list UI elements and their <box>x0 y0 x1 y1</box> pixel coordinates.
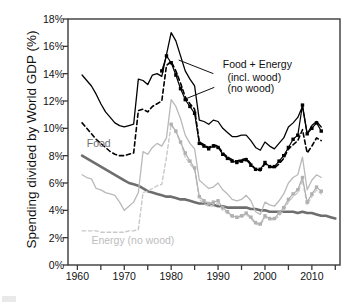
series-marker <box>268 165 271 168</box>
series-marker <box>315 121 318 124</box>
series-marker <box>235 215 238 218</box>
annotation-food-energy-no-wood: (no wood) <box>227 83 274 95</box>
series-marker <box>259 222 262 225</box>
x-tick-label: 2000 <box>253 270 276 282</box>
series-marker <box>226 210 229 213</box>
caption-artifact <box>2 296 16 302</box>
series-marker <box>174 129 177 132</box>
series-marker <box>212 144 215 147</box>
series-marker <box>207 147 210 150</box>
x-tick-label: 1980 <box>159 270 182 282</box>
series-marker <box>282 154 285 157</box>
series-marker <box>291 192 294 195</box>
series-marker <box>212 200 215 203</box>
y-axis-tick-labels: 0%2%4%6%8%10%12%14%16%18% <box>0 0 64 307</box>
series-marker <box>198 142 201 145</box>
series-marker <box>282 206 285 209</box>
series-marker <box>193 166 196 169</box>
annotation-energy-no-wood-label: Energy (no wood) <box>91 234 174 246</box>
y-tick-label: 4% <box>49 204 64 216</box>
x-tick-label: 1970 <box>113 270 136 282</box>
series-marker <box>305 200 308 203</box>
series-marker <box>179 87 182 90</box>
series-marker <box>230 214 233 217</box>
series-marker <box>202 144 205 147</box>
series-marker <box>254 221 257 224</box>
series-marker <box>169 123 172 126</box>
y-tick-label: 12% <box>43 95 64 107</box>
series-marker <box>263 214 266 217</box>
y-tick-label: 16% <box>43 40 64 52</box>
series-marker <box>226 157 229 160</box>
series-marker <box>235 161 238 164</box>
series-marker <box>291 138 294 141</box>
series-marker <box>193 112 196 115</box>
series-marker <box>216 199 219 202</box>
x-tick-label: 1960 <box>66 270 89 282</box>
series-marker <box>188 105 191 108</box>
series-line <box>82 124 321 232</box>
series-marker <box>273 165 276 168</box>
y-tick-label: 2% <box>49 232 64 244</box>
series-marker <box>174 73 177 76</box>
series-marker <box>160 69 163 72</box>
annotation-leader-line <box>187 87 214 98</box>
y-tick-label: 8% <box>49 150 64 162</box>
series-marker <box>277 211 280 214</box>
series-marker <box>221 206 224 209</box>
series-marker <box>320 190 323 193</box>
annotation-food-energy-title: Food + Energy <box>223 59 292 71</box>
series-marker <box>216 146 219 149</box>
series-marker <box>310 127 313 130</box>
series-marker <box>259 168 262 171</box>
series-marker <box>169 61 172 64</box>
series-marker <box>240 214 243 217</box>
y-tick-label: 6% <box>49 177 64 189</box>
series-marker <box>165 54 168 57</box>
series-marker <box>254 168 257 171</box>
series-marker <box>245 158 248 161</box>
series-marker <box>273 217 276 220</box>
series-marker <box>263 161 266 164</box>
y-tick-label: 0% <box>49 259 64 271</box>
chart-figure: Spending divided by World GDP (%) 0%2%4%… <box>0 0 358 307</box>
series-marker <box>296 133 299 136</box>
series-marker <box>249 215 252 218</box>
series-marker <box>287 146 290 149</box>
series-line <box>82 156 335 219</box>
series-marker <box>268 217 271 220</box>
annotation-food-label: Food <box>87 137 111 149</box>
series-marker <box>315 185 318 188</box>
series-marker <box>184 151 187 154</box>
y-tick-label: 18% <box>43 13 64 25</box>
x-tick-label: 1990 <box>206 270 229 282</box>
series-marker <box>277 159 280 162</box>
x-tick-label: 2010 <box>300 270 323 282</box>
y-tick-label: 10% <box>43 122 64 134</box>
series-marker <box>301 176 304 179</box>
series-marker <box>179 140 182 143</box>
series-marker <box>240 159 243 162</box>
series-marker <box>249 164 252 167</box>
series-line <box>82 33 321 151</box>
y-tick-label: 14% <box>43 68 64 80</box>
series-marker <box>305 132 308 135</box>
series-marker <box>287 198 290 201</box>
series-marker <box>310 192 313 195</box>
series-marker <box>188 159 191 162</box>
series-marker <box>221 153 224 156</box>
series-marker <box>207 202 210 205</box>
series-marker <box>301 103 304 106</box>
series-marker <box>320 129 323 132</box>
series-marker <box>202 199 205 202</box>
series-marker <box>184 98 187 101</box>
series-marker <box>245 211 248 214</box>
series-marker <box>230 159 233 162</box>
series-marker <box>296 188 299 191</box>
series-marker <box>198 195 201 198</box>
